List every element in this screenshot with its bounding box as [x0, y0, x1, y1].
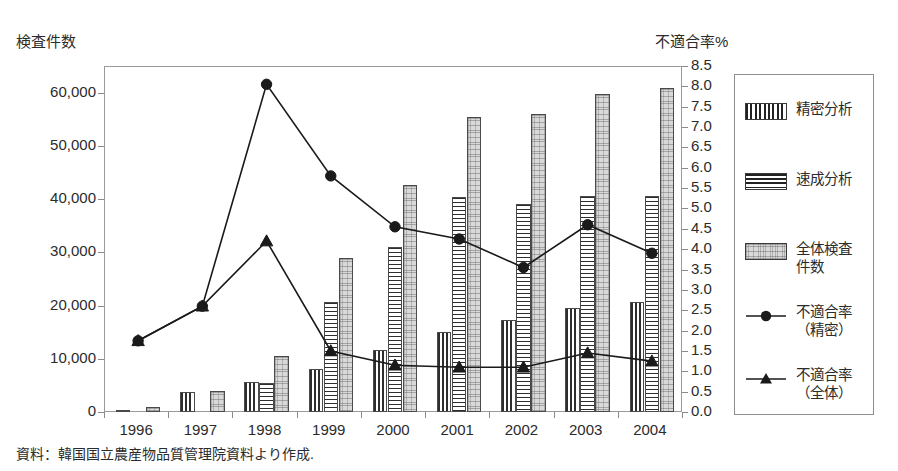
bar-精密分析-2001 — [437, 332, 452, 412]
right-tick-mark — [682, 107, 688, 108]
x-tick-mark — [618, 412, 619, 418]
bar-全体検査件数-2003 — [595, 94, 610, 412]
right-tick-label: 5.5 — [691, 178, 737, 195]
x-tick-mark — [168, 412, 169, 418]
legend-item-0: 精密分析 — [745, 101, 852, 120]
right-tick-label: 4.0 — [691, 239, 737, 256]
right-tick-label: 5.0 — [691, 198, 737, 215]
right-tick-label: 2.5 — [691, 300, 737, 317]
right-tick-mark — [682, 208, 688, 209]
bar-精密分析-1997 — [180, 392, 195, 412]
legend-label-4: 不適合率 （全体） — [796, 367, 852, 402]
bar-精密分析-1999 — [309, 369, 324, 412]
x-tick-mark — [489, 412, 490, 418]
legend-item-1: 速成分析 — [745, 171, 852, 190]
bars-layer — [104, 66, 682, 412]
bar-速成分析-2004 — [645, 196, 660, 412]
source-note: 資料：韓国国立農産物品質管理院資料より作成. — [16, 443, 314, 463]
legend: 精密分析速成分析全体検査 件数不適合率 （精密）不適合率 （全体） — [734, 74, 874, 415]
right-tick-label: 0.0 — [691, 402, 737, 419]
legend-label-1: 速成分析 — [796, 171, 852, 189]
right-tick-mark — [682, 168, 688, 169]
bar-速成分析-2003 — [580, 196, 595, 412]
bar-全体検査件数-1998 — [274, 356, 289, 412]
legend-swatch-horizontal-hatch — [745, 173, 787, 190]
x-tick-mark — [297, 412, 298, 418]
bar-精密分析-2004 — [630, 302, 645, 412]
left-tick-label: 0 — [18, 402, 96, 419]
right-tick-label: 7.0 — [691, 117, 737, 134]
right-tick-label: 3.0 — [691, 280, 737, 297]
x-tick-mark — [232, 412, 233, 418]
bar-精密分析-1996 — [116, 410, 131, 412]
legend-line-marker-triangle-icon — [745, 370, 787, 387]
right-tick-mark — [682, 371, 688, 372]
right-tick-mark — [682, 86, 688, 87]
bar-全体検査件数-2000 — [403, 185, 418, 412]
right-tick-mark — [682, 147, 688, 148]
right-tick-label: 6.5 — [691, 137, 737, 154]
x-tick-label-1997: 1997 — [168, 421, 232, 438]
bar-精密分析-1998 — [244, 382, 259, 412]
left-axis-title: 検査件数 — [16, 30, 76, 51]
x-tick-label-1998: 1998 — [232, 421, 296, 438]
bar-全体検査件数-2001 — [467, 117, 482, 412]
x-tick-label-2004: 2004 — [618, 421, 682, 438]
x-tick-label-2002: 2002 — [489, 421, 553, 438]
left-tick-label: 60,000 — [18, 83, 96, 100]
left-tick-label: 30,000 — [18, 242, 96, 259]
right-tick-label: 2.0 — [691, 321, 737, 338]
chart-container: 検査件数 不適合率% 010,00020,00030,00040,00050,0… — [0, 0, 898, 471]
legend-label-2: 全体検査 件数 — [796, 241, 852, 276]
right-tick-mark — [682, 127, 688, 128]
right-axis-title: 不適合率% — [655, 30, 728, 51]
x-tick-mark — [104, 412, 105, 418]
legend-label-3: 不適合率 （精密） — [796, 304, 852, 339]
right-tick-mark — [682, 249, 688, 250]
bar-速成分析-2002 — [516, 204, 531, 412]
legend-label-0: 精密分析 — [796, 101, 852, 119]
x-tick-mark — [425, 412, 426, 418]
right-tick-label: 4.5 — [691, 219, 737, 236]
x-tick-label-2000: 2000 — [361, 421, 425, 438]
bar-全体検査件数-2004 — [660, 88, 675, 412]
right-tick-label: 0.5 — [691, 382, 737, 399]
right-tick-label: 8.5 — [691, 56, 737, 73]
right-tick-label: 3.5 — [691, 260, 737, 277]
bar-速成分析-1999 — [324, 302, 339, 412]
right-tick-mark — [682, 290, 688, 291]
right-tick-mark — [682, 331, 688, 332]
bar-速成分析-2001 — [452, 197, 467, 412]
right-tick-mark — [682, 351, 688, 352]
right-tick-mark — [682, 392, 688, 393]
x-tick-mark — [554, 412, 555, 418]
legend-item-3: 不適合率 （精密） — [745, 304, 852, 339]
x-tick-mark — [361, 412, 362, 418]
bar-全体検査件数-2002 — [531, 114, 546, 412]
x-tick-label-2001: 2001 — [425, 421, 489, 438]
bar-精密分析-2002 — [501, 320, 516, 412]
right-tick-mark — [682, 310, 688, 311]
x-tick-label-1999: 1999 — [297, 421, 361, 438]
bar-精密分析-2000 — [373, 350, 388, 412]
legend-swatch-vertical-hatch — [745, 103, 787, 120]
bar-全体検査件数-1999 — [339, 258, 354, 412]
bar-速成分析-2000 — [388, 247, 403, 412]
right-tick-label: 6.0 — [691, 158, 737, 175]
right-tick-label: 1.5 — [691, 341, 737, 358]
x-tick-mark — [682, 412, 683, 418]
right-tick-mark — [682, 229, 688, 230]
bar-全体検査件数-1996 — [146, 407, 161, 412]
bar-全体検査件数-1997 — [210, 391, 225, 412]
x-tick-label-1996: 1996 — [104, 421, 168, 438]
left-tick-label: 20,000 — [18, 296, 96, 313]
right-tick-mark — [682, 66, 688, 67]
bar-精密分析-2003 — [565, 308, 580, 412]
left-tick-label: 50,000 — [18, 136, 96, 153]
left-tick-label: 40,000 — [18, 189, 96, 206]
legend-line-marker-circle-icon — [745, 307, 787, 324]
right-tick-mark — [682, 188, 688, 189]
left-tick-label: 10,000 — [18, 349, 96, 366]
right-tick-label: 8.0 — [691, 76, 737, 93]
legend-item-2: 全体検査 件数 — [745, 241, 852, 276]
